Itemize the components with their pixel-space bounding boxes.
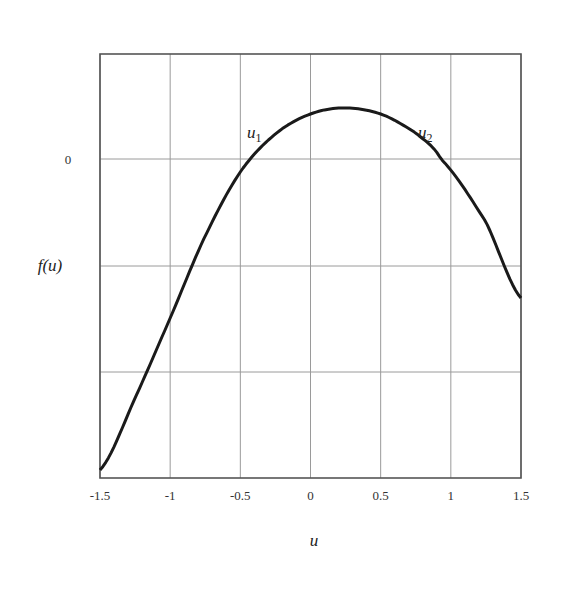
annotation-u2: u2 <box>418 123 433 145</box>
x-tick-label: -0.5 <box>230 488 251 503</box>
x-tick-label: 1.5 <box>513 488 529 503</box>
x-tick-label: -1.5 <box>90 488 111 503</box>
y-axis-label: f(u) <box>38 256 63 275</box>
x-tick-label: -1 <box>165 488 176 503</box>
x-tick-label: 0.5 <box>373 488 389 503</box>
annotation-u1: u1 <box>247 123 262 145</box>
x-tick-label: 0 <box>307 488 314 503</box>
x-tick-label: 1 <box>448 488 455 503</box>
x-tick-labels: -1.5-1-0.500.511.5 <box>90 488 529 503</box>
x-axis-label: u <box>310 531 319 550</box>
grid <box>100 54 521 478</box>
y-tick-zero: 0 <box>65 152 72 167</box>
chart: -1.5-1-0.500.511.5 0 f(u) u u1 u2 <box>0 0 563 591</box>
